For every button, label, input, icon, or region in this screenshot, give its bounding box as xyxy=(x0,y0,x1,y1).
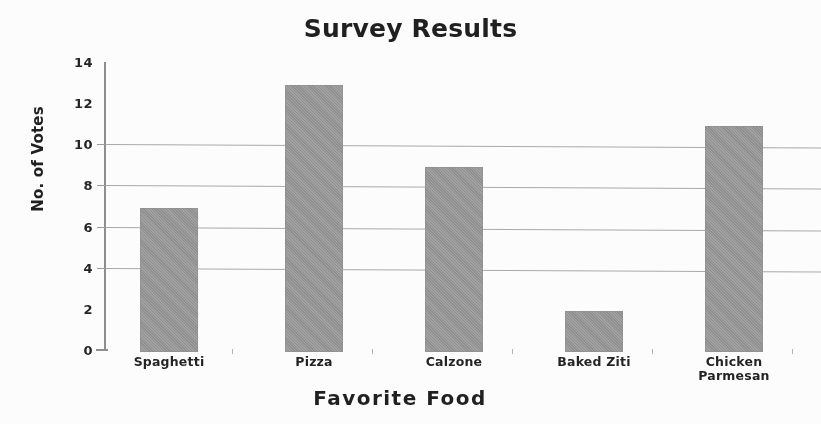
y-axis-tick-mark xyxy=(97,185,106,186)
y-axis-tick-label: 0 xyxy=(83,343,93,358)
y-axis-tick-label: 14 xyxy=(74,55,93,70)
y-axis-tick-mark xyxy=(97,268,106,269)
y-axis-tick-mark xyxy=(97,144,106,145)
bar xyxy=(285,85,343,352)
bar xyxy=(140,208,198,352)
x-axis-tick-mark xyxy=(232,349,233,354)
plot-area: 02468101214 xyxy=(104,62,821,352)
x-axis-category-label: Spaghetti xyxy=(109,355,229,369)
x-axis-tick-mark xyxy=(792,349,793,354)
y-axis-tick-label: 2 xyxy=(83,301,93,316)
x-axis-category-label: Baked Ziti xyxy=(534,355,654,369)
y-axis-tick-label: 8 xyxy=(83,178,93,193)
y-axis-tick-label: 4 xyxy=(83,260,93,275)
x-axis-category-label: Calzone xyxy=(394,355,514,369)
chart-title: Survey Results xyxy=(0,14,821,43)
x-axis-category-label: Chicken Parmesan xyxy=(674,355,794,383)
x-axis-category-label: Pizza xyxy=(254,355,374,369)
x-axis-tick-mark xyxy=(652,349,653,354)
bar xyxy=(705,126,763,352)
x-axis-title: Favorite Food xyxy=(120,386,680,410)
x-axis-tick-mark xyxy=(372,349,373,354)
y-axis-tick-label: 6 xyxy=(83,219,93,234)
y-axis-tick-label: 10 xyxy=(74,137,93,152)
x-axis-tick-mark xyxy=(512,349,513,354)
y-axis-title: No. of Votes xyxy=(29,99,47,219)
bar xyxy=(565,311,623,352)
bar xyxy=(425,167,483,352)
bar-chart: Survey Results No. of Votes 02468101214 … xyxy=(0,0,821,424)
y-axis-tick-label: 12 xyxy=(74,96,93,111)
y-axis-tick-mark xyxy=(97,227,106,228)
